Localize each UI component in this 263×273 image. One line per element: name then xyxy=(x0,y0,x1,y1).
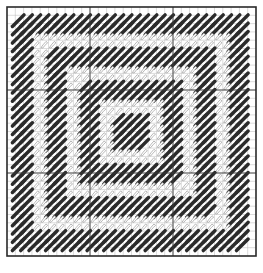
stitch-chart xyxy=(0,0,263,273)
